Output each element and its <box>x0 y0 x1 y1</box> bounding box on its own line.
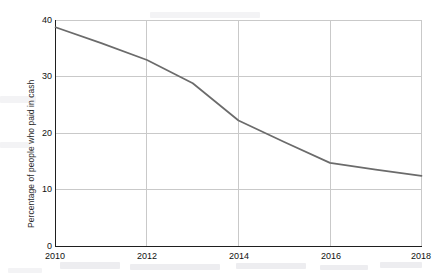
y-tick-label-30: 30 <box>28 71 52 81</box>
y-tick-label-0: 0 <box>28 241 52 251</box>
y-tick-label-40: 40 <box>28 15 52 25</box>
x-tick-label-2014: 2014 <box>217 251 261 261</box>
line-chart: Percentage of people who paid in cash 40… <box>0 0 443 277</box>
x-tick-label-2012: 2012 <box>125 251 169 261</box>
x-tick-label-2018: 2018 <box>399 251 443 261</box>
y-tick-label-10: 10 <box>28 184 52 194</box>
plot-canvas <box>0 0 443 277</box>
x-tick-label-2016: 2016 <box>309 251 353 261</box>
y-tick-label-20: 20 <box>28 128 52 138</box>
x-tick-label-2010: 2010 <box>33 251 77 261</box>
